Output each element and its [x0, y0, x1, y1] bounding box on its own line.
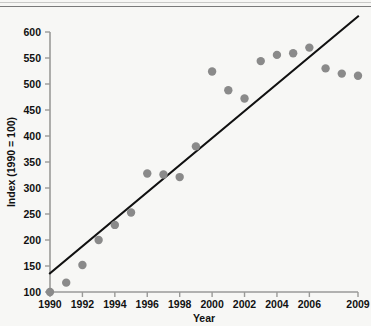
data-point: [338, 69, 346, 77]
y-tick-label: 450: [23, 104, 41, 116]
data-point: [321, 64, 329, 72]
data-point: [94, 236, 102, 244]
chart-figure: 100150200250300350400450500550600 199019…: [0, 0, 371, 326]
y-axis-ticks: 100150200250300350400450500550600: [23, 26, 50, 298]
y-tick-label: 600: [23, 26, 41, 38]
data-point: [305, 43, 313, 51]
y-tick-label: 300: [23, 182, 41, 194]
data-point: [111, 221, 119, 229]
data-point: [78, 261, 86, 269]
y-tick-label: 150: [23, 260, 41, 272]
x-tick-label: 1996: [136, 298, 160, 310]
data-point: [354, 71, 362, 79]
y-tick-label: 500: [23, 78, 41, 90]
y-tick-label: 350: [23, 156, 41, 168]
data-point: [159, 170, 167, 178]
data-point: [175, 173, 183, 181]
x-tick-label: 1992: [71, 298, 95, 310]
y-tick-label: 100: [23, 286, 41, 298]
x-tick-label: 2006: [298, 298, 322, 310]
x-axis-title: Year: [193, 312, 215, 324]
x-tick-label: 2009: [346, 298, 370, 310]
x-tick-label: 1990: [38, 298, 62, 310]
y-tick-label: 200: [23, 234, 41, 246]
data-point: [192, 142, 200, 150]
y-tick-label: 400: [23, 130, 41, 142]
x-tick-label: 1994: [103, 298, 127, 310]
data-point: [127, 208, 135, 216]
y-axis-title: Index (1990 = 100): [5, 117, 17, 207]
data-points: [46, 43, 362, 296]
x-tick-label: 2004: [265, 298, 289, 310]
data-point: [240, 94, 248, 102]
x-axis-ticks: 1990199219941996199820002002200420062009: [38, 292, 370, 310]
data-point: [143, 169, 151, 177]
trend-line: [50, 16, 358, 273]
x-tick-label: 2000: [200, 298, 224, 310]
x-tick-label: 2002: [233, 298, 257, 310]
x-tick-label: 1998: [168, 298, 192, 310]
data-point: [62, 278, 70, 286]
scatter-plot: 100150200250300350400450500550600 199019…: [0, 0, 371, 326]
data-point: [273, 51, 281, 59]
data-point: [224, 86, 232, 94]
data-point: [46, 288, 54, 296]
data-point: [257, 57, 265, 65]
data-point: [289, 49, 297, 57]
data-point: [208, 67, 216, 75]
y-tick-label: 250: [23, 208, 41, 220]
y-tick-label: 550: [23, 52, 41, 64]
axes: [50, 32, 358, 292]
